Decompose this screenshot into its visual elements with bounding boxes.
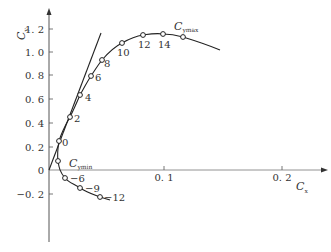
point-6 — [89, 74, 94, 79]
y-axis-label: Cy — [15, 28, 30, 40]
point-2 — [68, 115, 73, 120]
y-axis-arrow-icon — [47, 8, 52, 15]
x-axis-arrow-icon — [321, 168, 328, 173]
y-tick-0-2: 0. 2 — [25, 142, 44, 153]
label-m6: −6 — [70, 173, 85, 184]
label-m12: −12 — [104, 192, 125, 203]
label-14: 14 — [158, 39, 171, 50]
point-m9 — [78, 186, 83, 191]
point-10 — [120, 41, 125, 46]
y-tick-0-4: 0. 4 — [25, 118, 44, 129]
label-4: 4 — [85, 92, 91, 103]
x-tick-0-2: 0. 2 — [272, 172, 291, 183]
x-tick-0-1: 0. 1 — [154, 172, 173, 183]
point-cmin — [56, 159, 61, 164]
point-m6 — [63, 176, 68, 181]
point-cmax — [181, 35, 186, 40]
y-tick-0-8: 0. 8 — [25, 70, 44, 81]
label-8: 8 — [104, 58, 110, 69]
x-ticks — [164, 166, 282, 170]
point-m12 — [98, 195, 103, 200]
x-axis-label: Cx — [296, 180, 308, 194]
point-4 — [78, 93, 83, 98]
label-10: 10 — [117, 47, 130, 58]
cmax-annotation: Cymax — [174, 20, 199, 34]
label-0: 0 — [62, 137, 68, 148]
y-tick-0-6: 0. 6 — [25, 94, 44, 105]
label-2: 2 — [74, 113, 80, 124]
label-m9: −9 — [85, 183, 100, 194]
y-tick-neg-0-2: −0. 2 — [17, 189, 44, 200]
point-14 — [161, 32, 166, 37]
y-tick-1-0: 1. 0 — [25, 47, 44, 58]
svg-text:Cy: Cy — [15, 28, 30, 40]
label-12: 12 — [138, 39, 151, 50]
point-12 — [141, 33, 146, 38]
cmin-annotation: Cymin — [69, 157, 92, 171]
point-0 — [57, 139, 62, 144]
drag-polar-chart: 1. 2 1. 0 0. 8 0. 6 0. 4 0. 2 0 −0. 2 0.… — [0, 0, 331, 252]
tangent-line — [49, 33, 101, 170]
label-6: 6 — [95, 72, 101, 83]
y-tick-0: 0 — [38, 165, 44, 176]
